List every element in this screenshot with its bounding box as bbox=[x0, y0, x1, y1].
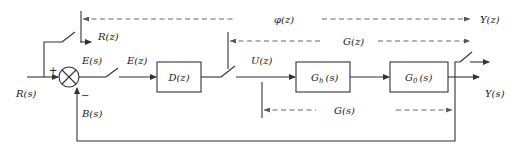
error-sampler-switch bbox=[106, 68, 118, 77]
output-sampler-switch bbox=[460, 52, 472, 62]
error-sampler bbox=[79, 68, 156, 77]
output-label: Y(s) bbox=[485, 88, 505, 99]
continuous-transfer-label: G(s) bbox=[334, 105, 355, 116]
closed-loop-label: φ(z) bbox=[274, 14, 294, 25]
plus-sign: + bbox=[49, 65, 57, 76]
controller-block: D(z) bbox=[157, 62, 201, 92]
pulse-transfer-label: G(z) bbox=[343, 36, 364, 47]
control-signal-label: U(z) bbox=[251, 55, 273, 66]
output-sampler bbox=[455, 52, 489, 77]
control-block-diagram: R(s) + R(z) − E(s) E(z) D(z) U(z) Gh(s) bbox=[0, 0, 523, 153]
sampled-output-label: Y(z) bbox=[480, 14, 500, 25]
input-sampler-switch bbox=[62, 32, 75, 42]
controller-label: D(z) bbox=[167, 72, 189, 83]
input-label: R(s) bbox=[15, 88, 37, 99]
error-label: E(s) bbox=[81, 55, 102, 66]
minus-sign: − bbox=[81, 90, 89, 101]
summing-junction bbox=[59, 67, 79, 87]
hold-block: Gh(s) bbox=[296, 62, 350, 92]
plant-block: G0(s) bbox=[390, 62, 448, 92]
controller-output-sampler bbox=[201, 66, 295, 77]
feedback-label: B(s) bbox=[81, 108, 102, 119]
sampled-error-label: E(z) bbox=[126, 55, 147, 66]
sampled-input-label: R(z) bbox=[97, 31, 119, 42]
